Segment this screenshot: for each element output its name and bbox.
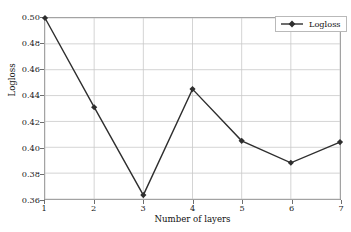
plot-area — [44, 17, 341, 200]
series-marker-diamond-icon — [288, 160, 294, 166]
x-axis-tick-label: 4 — [181, 203, 205, 213]
series-line-logloss — [45, 18, 340, 195]
y-axis-tick-label: 0.46 — [0, 64, 40, 74]
x-axis-tick-mark — [292, 200, 293, 204]
x-axis-tick-label: 6 — [280, 203, 304, 213]
x-axis-tick-mark — [341, 200, 342, 204]
y-axis-tick-label: 0.38 — [0, 169, 40, 179]
x-axis-tick-mark — [94, 200, 95, 204]
x-axis-tick-mark — [242, 200, 243, 204]
x-axis-title: Number of layers — [44, 214, 341, 224]
chart-figure: Logloss 0.360.380.400.420.440.460.480.50… — [0, 0, 351, 232]
series-marker-diamond-icon — [140, 192, 146, 198]
x-axis-tick-mark — [44, 200, 45, 204]
x-axis-tick-label: 1 — [32, 203, 56, 213]
x-axis-tick-label: 2 — [82, 203, 106, 213]
y-axis-tick-label: 0.50 — [0, 12, 40, 22]
legend-label: Logloss — [309, 20, 341, 28]
y-axis-tick-label: 0.48 — [0, 38, 40, 48]
legend-marker-diamond-icon — [280, 19, 304, 29]
series-marker-diamond-icon — [91, 104, 97, 110]
data-series-layer — [45, 18, 340, 199]
x-axis-tick-label: 3 — [131, 203, 155, 213]
x-axis-tick-label: 7 — [329, 203, 351, 213]
chart-legend[interactable]: Logloss — [275, 16, 347, 32]
y-axis-tick-label: 0.42 — [0, 117, 40, 127]
legend-diamond-icon — [289, 21, 296, 28]
y-axis-tick-label: 0.44 — [0, 90, 40, 100]
y-axis-title: Logloss — [7, 44, 17, 116]
x-axis-tick-label: 5 — [230, 203, 254, 213]
series-marker-diamond-icon — [337, 139, 343, 145]
series-marker-diamond-icon — [42, 15, 48, 21]
x-axis-tick-mark — [193, 200, 194, 204]
y-axis-tick-label: 0.40 — [0, 143, 40, 153]
x-axis-tick-mark — [143, 200, 144, 204]
